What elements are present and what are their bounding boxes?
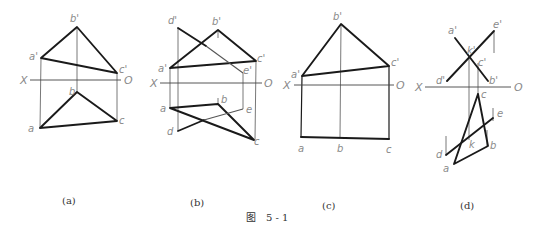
label-d: d bbox=[436, 149, 443, 160]
axis-label-x: X bbox=[149, 77, 158, 90]
projector-c bbox=[255, 61, 256, 140]
panel-a: X O b' a' c' b a c (a) bbox=[19, 13, 133, 206]
label-k: k bbox=[469, 139, 476, 150]
label-c: c bbox=[254, 136, 260, 147]
caption-d: (d) bbox=[460, 200, 474, 211]
label-d-prime: d' bbox=[436, 75, 445, 86]
label-a-prime: a' bbox=[158, 63, 167, 74]
label-b-prime: b' bbox=[70, 13, 79, 24]
label-b-prime: b' bbox=[489, 75, 498, 86]
label-c-prime: c' bbox=[257, 53, 265, 64]
axis-label-o: O bbox=[514, 81, 523, 94]
label-c-prime: c' bbox=[119, 64, 127, 75]
label-b: b bbox=[490, 140, 496, 151]
caption-c: (c) bbox=[322, 200, 336, 211]
label-d-prime: d' bbox=[168, 15, 177, 26]
projector-a bbox=[40, 58, 41, 128]
label-c: c bbox=[119, 115, 125, 126]
label-a: a bbox=[443, 163, 449, 174]
figure-caption-prefix: 图 bbox=[246, 212, 256, 223]
label-c: c bbox=[386, 144, 392, 155]
panel-c: X O b' a' c' a b c (c) bbox=[282, 11, 405, 211]
figure-5-1: X O b' a' c' b a c (a) X O d' bbox=[0, 0, 539, 240]
top-view-edge bbox=[301, 137, 389, 139]
label-b-prime: b' bbox=[212, 16, 221, 27]
label-a-prime: a' bbox=[29, 51, 38, 62]
front-view-triangle bbox=[41, 27, 117, 73]
top-view-triangle bbox=[40, 92, 117, 128]
label-a: a bbox=[28, 123, 34, 134]
label-c-prime: c' bbox=[391, 57, 399, 68]
label-b: b bbox=[69, 86, 75, 97]
figure-caption-number: 5 - 1 bbox=[266, 212, 288, 223]
panel-b: X O d' b' a' c' e' a b e d c (b) bbox=[149, 15, 273, 208]
label-e-prime: e' bbox=[243, 65, 252, 76]
label-e-prime: e' bbox=[493, 19, 502, 30]
label-b: b bbox=[221, 94, 227, 105]
label-d: d bbox=[167, 126, 174, 137]
axis-label-o: O bbox=[396, 79, 405, 92]
label-a-prime: a' bbox=[448, 25, 457, 36]
axis-label-x: X bbox=[282, 79, 291, 92]
front-view-triangle bbox=[170, 30, 256, 68]
top-view-triangle bbox=[454, 94, 488, 164]
line-de-front bbox=[447, 31, 494, 81]
front-view-triangle bbox=[302, 24, 389, 76]
axis-label-o: O bbox=[124, 74, 133, 87]
panel-d: X O a' e' k' c' d' b' c e k b d a (d) bbox=[414, 19, 523, 211]
axis-label-x: X bbox=[414, 81, 423, 94]
label-b: b bbox=[337, 143, 343, 154]
axis-label-x: X bbox=[19, 74, 28, 87]
caption-b: (b) bbox=[190, 197, 204, 208]
label-e: e bbox=[246, 104, 252, 115]
label-e: e bbox=[497, 108, 503, 119]
label-b-prime: b' bbox=[333, 11, 342, 22]
axis-label-o: O bbox=[264, 77, 273, 90]
line-de-front bbox=[206, 46, 243, 73]
label-a-prime: a' bbox=[291, 69, 300, 80]
label-a: a bbox=[298, 143, 304, 154]
line-de-top-visible bbox=[178, 120, 204, 131]
label-c-prime: c' bbox=[478, 57, 486, 68]
label-c: c bbox=[481, 89, 487, 100]
label-a: a bbox=[160, 103, 166, 114]
label-k-prime: k' bbox=[467, 45, 476, 56]
line-de-front-visible bbox=[178, 28, 206, 46]
projector-b bbox=[340, 24, 341, 137]
caption-a: (a) bbox=[62, 195, 76, 206]
